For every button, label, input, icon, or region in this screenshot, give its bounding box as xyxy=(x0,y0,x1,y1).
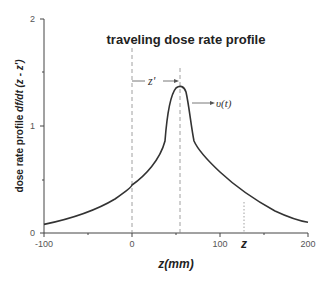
x-tick-label: 100 xyxy=(212,239,227,249)
y-label-prefix: dose rate profile xyxy=(14,112,25,193)
x-axis: -100 0 100 200 xyxy=(35,233,316,249)
x-tick-label: 200 xyxy=(300,239,315,249)
y-axis-label: dose rate profile df/dt (z - z') xyxy=(14,59,25,193)
x-axis-label: z(mm) xyxy=(157,257,193,271)
y-tick-label: 0 xyxy=(30,228,35,238)
z-prime-label: z' xyxy=(147,74,156,88)
arrowhead-icon xyxy=(210,101,215,105)
chart-svg: 2 1 0 -100 0 100 200 z' υ(t) traveling d… xyxy=(0,0,326,284)
x-tick-label: 0 xyxy=(129,239,134,249)
arrowhead-icon xyxy=(174,79,179,83)
x-tick-label: -100 xyxy=(35,239,53,249)
y-tick-label: 1 xyxy=(30,121,35,131)
y-tick-label: 2 xyxy=(30,14,35,24)
dose-rate-curve xyxy=(44,86,308,224)
y-axis: 2 1 0 xyxy=(30,14,44,238)
z-marker-label: z xyxy=(240,237,247,251)
y-label-suffix: (z - z') xyxy=(14,59,25,90)
vt-label: υ(t) xyxy=(216,97,232,110)
y-label-italic: df/dt xyxy=(14,90,25,112)
chart-title: traveling dose rate profile xyxy=(107,32,266,47)
